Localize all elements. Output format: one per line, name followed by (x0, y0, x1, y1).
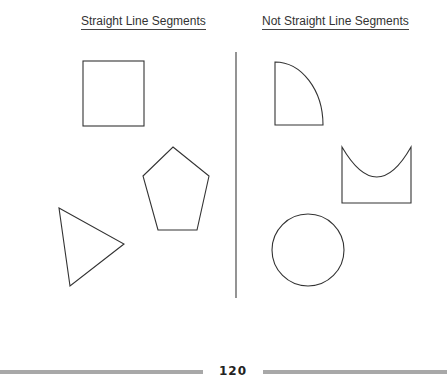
u-shape (342, 147, 411, 203)
triangle-shape (59, 208, 124, 286)
footer-bar-left (0, 370, 203, 374)
pentagon-shape (143, 147, 209, 230)
circle-shape (272, 214, 344, 286)
quarter-circle-shape (275, 62, 323, 125)
page-number: 120 (203, 364, 263, 378)
square-shape (83, 61, 144, 126)
shapes-canvas (0, 0, 447, 384)
footer-bar-right (263, 370, 447, 374)
